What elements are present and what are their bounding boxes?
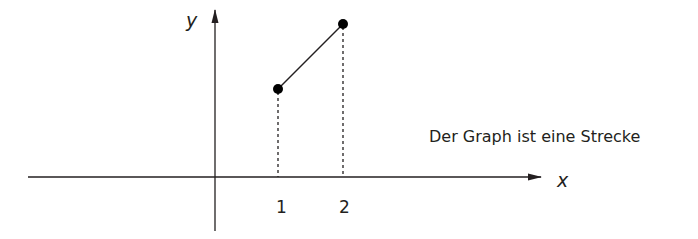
tick-label-2: 2 <box>339 197 350 217</box>
x-axis-label: x <box>556 169 569 191</box>
endpoint-end <box>338 19 348 29</box>
endpoint-start <box>273 84 283 94</box>
graph-diagram: y x 1 2 Der Graph ist eine Strecke <box>0 0 698 239</box>
y-axis-label: y <box>185 9 198 31</box>
tick-label-1: 1 <box>276 197 287 217</box>
caption: Der Graph ist eine Strecke <box>429 127 640 146</box>
line-segment <box>278 24 343 89</box>
